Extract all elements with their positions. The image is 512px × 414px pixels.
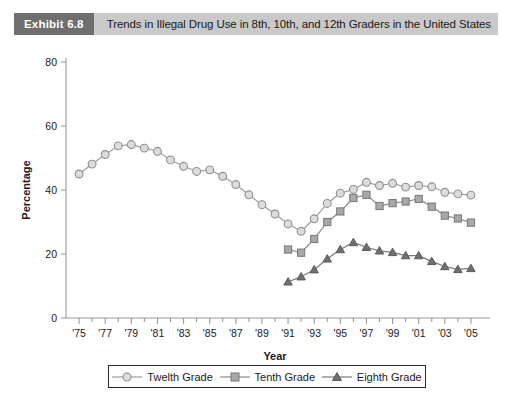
data-point-eighth-grade — [428, 257, 436, 264]
y-axis: 020406080 — [45, 56, 66, 324]
x-axis-title: Year — [263, 350, 287, 362]
x-tick-label: '03 — [438, 327, 452, 339]
data-point-tenth-grade — [298, 249, 305, 256]
x-tick-label: '79 — [124, 327, 138, 339]
x-tick-label: '87 — [229, 327, 243, 339]
data-point-tenth-grade — [428, 203, 435, 210]
legend-label-eighth-grade: Eighth Grade — [357, 371, 422, 383]
x-tick-label: '01 — [412, 327, 426, 339]
data-point-twelth-grade — [75, 170, 83, 178]
data-point-twelth-grade — [180, 162, 188, 170]
data-point-twelth-grade — [415, 182, 423, 190]
data-point-eighth-grade — [284, 278, 292, 285]
y-tick-label: 60 — [45, 120, 57, 132]
chart-container: 020406080 '75'77'79'81'83'85'87'89'91'93… — [0, 35, 512, 375]
y-tick-label: 80 — [45, 56, 57, 68]
data-point-twelth-grade — [389, 179, 397, 187]
triangle-marker-icon — [322, 371, 352, 383]
x-tick-label: '89 — [255, 327, 269, 339]
series-layer — [75, 141, 475, 285]
data-point-eighth-grade — [297, 273, 305, 280]
data-point-tenth-grade — [337, 208, 344, 215]
exhibit-title: Trends in Illegal Drug Use in 8th, 10th,… — [94, 13, 491, 35]
legend-label-twelfth-grade: Twelth Grade — [147, 371, 212, 383]
x-tick-label: '85 — [203, 327, 217, 339]
exhibit-number-badge: Exhibit 6.8 — [14, 13, 94, 35]
x-tick-label: '05 — [464, 327, 478, 339]
x-tick-label: '77 — [98, 327, 112, 339]
x-tick-label: '99 — [386, 327, 400, 339]
data-point-eighth-grade — [467, 264, 475, 271]
data-point-twelth-grade — [349, 185, 357, 193]
data-point-twelth-grade — [441, 188, 449, 196]
data-point-twelth-grade — [245, 191, 253, 199]
data-point-twelth-grade — [101, 151, 109, 159]
x-tick-label: '91 — [281, 327, 295, 339]
data-point-tenth-grade — [402, 198, 409, 205]
legend-item-eighth-grade: Eighth Grade — [322, 371, 422, 383]
data-point-twelth-grade — [428, 183, 436, 191]
data-point-eighth-grade — [349, 238, 357, 245]
data-point-tenth-grade — [284, 246, 291, 253]
data-point-twelth-grade — [454, 190, 462, 198]
data-point-tenth-grade — [311, 235, 318, 242]
data-point-tenth-grade — [467, 219, 474, 226]
data-point-eighth-grade — [323, 255, 331, 262]
exhibit-header: Exhibit 6.8 Trends in Illegal Drug Use i… — [14, 13, 498, 35]
data-point-tenth-grade — [376, 202, 383, 209]
line-chart: 020406080 '75'77'79'81'83'85'87'89'91'93… — [0, 35, 512, 375]
x-tick-label: '93 — [307, 327, 321, 339]
data-point-tenth-grade — [389, 200, 396, 207]
data-point-tenth-grade — [415, 195, 422, 202]
x-tick-label: '95 — [333, 327, 347, 339]
data-point-tenth-grade — [454, 215, 461, 222]
legend-item-twelfth-grade: Twelth Grade — [112, 371, 212, 383]
y-tick-label: 40 — [45, 184, 57, 196]
data-point-twelth-grade — [193, 168, 201, 176]
data-point-twelth-grade — [284, 220, 292, 228]
data-point-twelth-grade — [363, 178, 371, 186]
circle-marker-icon — [112, 371, 142, 383]
data-point-twelth-grade — [232, 181, 240, 189]
data-point-twelth-grade — [88, 160, 96, 168]
y-tick-label: 0 — [51, 312, 57, 324]
data-point-twelth-grade — [323, 200, 331, 208]
x-tick-label: '75 — [72, 327, 86, 339]
y-tick-label: 20 — [45, 248, 57, 260]
data-point-twelth-grade — [114, 142, 122, 150]
chart-legend: Twelth Grade Tenth Grade Eighth Grade — [108, 365, 426, 388]
legend-item-tenth-grade: Tenth Grade — [220, 371, 316, 383]
data-point-tenth-grade — [363, 191, 370, 198]
data-point-twelth-grade — [206, 166, 214, 174]
data-point-twelth-grade — [154, 147, 162, 155]
data-point-twelth-grade — [127, 141, 135, 149]
data-point-twelth-grade — [219, 172, 227, 180]
x-tick-label: '97 — [360, 327, 374, 339]
y-axis-title: Percentage — [20, 160, 32, 219]
data-point-twelth-grade — [310, 215, 318, 223]
data-point-tenth-grade — [441, 212, 448, 219]
data-point-tenth-grade — [350, 194, 357, 201]
legend-label-tenth-grade: Tenth Grade — [255, 371, 316, 383]
data-point-twelth-grade — [271, 210, 279, 218]
data-point-twelth-grade — [336, 189, 344, 197]
x-axis: '75'77'79'81'83'85'87'89'91'93'95'97'99'… — [66, 318, 490, 339]
data-point-twelth-grade — [376, 182, 384, 190]
data-point-twelth-grade — [402, 183, 410, 191]
data-point-twelth-grade — [140, 144, 148, 152]
data-point-twelth-grade — [297, 227, 305, 235]
data-point-twelth-grade — [467, 191, 475, 199]
data-point-eighth-grade — [336, 245, 344, 252]
data-point-tenth-grade — [324, 218, 331, 225]
x-tick-label: '81 — [151, 327, 165, 339]
data-point-eighth-grade — [441, 262, 449, 269]
data-point-twelth-grade — [167, 156, 175, 164]
square-marker-icon — [220, 371, 250, 383]
data-point-twelth-grade — [258, 201, 266, 209]
x-tick-label: '83 — [177, 327, 191, 339]
